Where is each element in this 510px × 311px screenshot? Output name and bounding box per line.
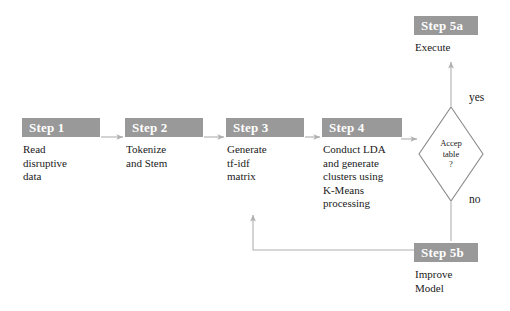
node-step2[interactable]: Step 2 Tokenize and Stem [125,118,203,170]
node-step3-header: Step 3 [226,118,304,137]
decision-node-acceptable[interactable]: Accep table ? [418,106,484,202]
node-step5b[interactable]: Step 5b Improve Model [414,243,478,295]
node-step1-header: Step 1 [22,118,100,137]
flowchart-canvas: Step 1 Read disruptive data Step 2 Token… [0,0,510,311]
node-step4[interactable]: Step 4 Conduct LDA and generate clusters… [322,118,402,211]
node-step1[interactable]: Step 1 Read disruptive data [22,118,100,184]
node-step5a-body: Execute [414,35,478,55]
node-step4-body: Conduct LDA and generate clusters using … [322,137,402,211]
edge-label-no: no [469,193,481,205]
node-step5a[interactable]: Step 5a Execute [414,16,478,55]
node-step3[interactable]: Step 3 Generate tf-idf matrix [226,118,304,184]
node-step5a-header: Step 5a [414,16,478,35]
diamond-shape-icon [418,106,484,202]
node-step5b-body: Improve Model [414,262,478,295]
node-step5b-header: Step 5b [414,243,478,262]
node-step1-body: Read disruptive data [22,137,100,184]
node-step2-header: Step 2 [125,118,203,137]
node-step2-body: Tokenize and Stem [125,137,203,170]
node-step4-header: Step 4 [322,118,402,137]
connector-step5b-feedback-to-step4 [253,215,414,250]
edge-label-yes: yes [469,91,484,103]
node-step3-body: Generate tf-idf matrix [226,137,304,184]
